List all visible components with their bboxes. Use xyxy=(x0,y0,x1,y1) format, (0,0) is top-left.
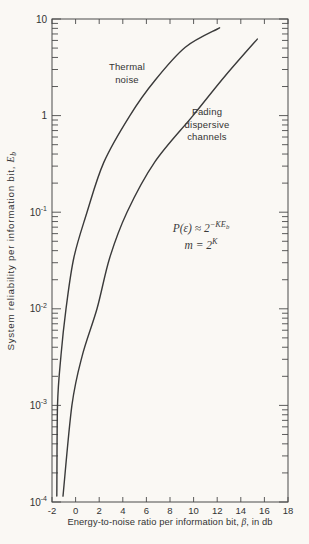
y-tick-labels: 10110-110-210-310-4 xyxy=(30,14,48,508)
y-tick-label: 10-4 xyxy=(30,495,47,508)
plot-frame xyxy=(52,19,288,502)
y-tick-label-exponent: -3 xyxy=(41,398,47,405)
eb-symbol-subscript: b xyxy=(9,151,18,155)
x-axis-title-text: Energy-to-noise ratio per information bi… xyxy=(67,516,241,527)
y-tick-label-base: 10 xyxy=(30,400,42,411)
x-tick-label: 6 xyxy=(144,505,149,516)
equation-base: m = 2 xyxy=(184,239,212,251)
x-tick-label: 16 xyxy=(259,505,270,516)
x-tick-label: 4 xyxy=(120,505,125,516)
y-tick-label-base: 10 xyxy=(30,303,42,314)
x-axis-title-suffix: , in db xyxy=(246,516,272,527)
series-label-line: dispersive xyxy=(167,119,247,132)
series-label-thermal-noise: Thermal noise xyxy=(87,61,167,86)
exponent-text: −KE xyxy=(210,220,226,229)
equation-line-2: m = 2K xyxy=(144,237,258,254)
equation-line-1: P(ε) ≈ 2−KEb xyxy=(144,220,258,237)
series-label-line: noise xyxy=(87,74,167,87)
y-tick-label-base: 10 xyxy=(30,497,42,508)
series-label-line: channels xyxy=(167,131,247,144)
series-label-line: Fading xyxy=(167,106,247,119)
y-tick-label: 10 xyxy=(36,14,48,25)
x-tick-labels: -2024681012141618 xyxy=(48,505,294,516)
y-tick-label: 10-3 xyxy=(30,398,47,411)
equation-annotation: P(ε) ≈ 2−KEb m = 2K xyxy=(144,220,258,254)
y-tick-label: 1 xyxy=(41,110,47,121)
x-tick-label: 10 xyxy=(188,505,199,516)
x-tick-label: 18 xyxy=(283,505,294,516)
y-axis-title-text: System reliability per information bit, xyxy=(5,162,16,350)
y-tick-label-base: 10 xyxy=(30,207,42,218)
x-tick-label: 2 xyxy=(97,505,102,516)
series-label-fading-dispersive-channels: Fading dispersive channels xyxy=(167,106,247,144)
eb-symbol: Eb xyxy=(5,151,16,162)
x-tick-label: 12 xyxy=(212,505,223,516)
equation-exponent: K xyxy=(212,237,218,246)
x-tick-label: 0 xyxy=(73,505,78,516)
eb-symbol-base: E xyxy=(5,156,16,163)
equation-exponent: −KEb xyxy=(210,220,230,229)
x-tick-label: 14 xyxy=(236,505,247,516)
x-tick-label: -2 xyxy=(48,505,56,516)
x-axis-title: Energy-to-noise ratio per information bi… xyxy=(52,516,288,527)
curve-thermal-noise xyxy=(57,28,220,496)
y-tick-label-base: 1 xyxy=(41,110,47,121)
y-tick-label: 10-2 xyxy=(30,302,47,315)
y-tick-label-exponent: -4 xyxy=(41,495,47,502)
y-axis-title: System reliability per information bit, … xyxy=(5,151,16,350)
equation-base: P(ε) ≈ 2 xyxy=(173,222,210,234)
series-label-line: Thermal xyxy=(87,61,167,74)
y-tick-label: 10-1 xyxy=(30,205,47,218)
exponent-subscript: b xyxy=(226,224,229,231)
log-line-chart-figure: -202468101214161810110-110-210-310-4 The… xyxy=(0,0,309,544)
tick-marks xyxy=(52,19,288,502)
y-tick-label-exponent: -2 xyxy=(41,302,47,309)
y-tick-label-exponent: -1 xyxy=(41,205,47,212)
x-tick-label: 8 xyxy=(167,505,172,516)
y-tick-label-base: 10 xyxy=(36,14,48,25)
